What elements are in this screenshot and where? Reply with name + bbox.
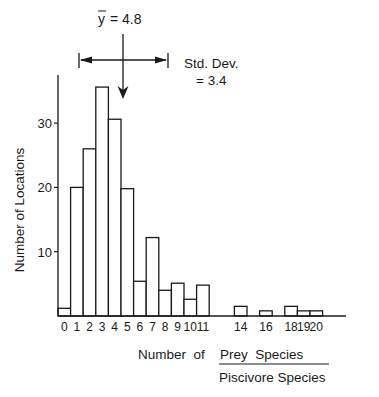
y-tick-10: 10 [38, 245, 52, 260]
y-tick-20: 20 [38, 180, 52, 195]
x-tick-5: 5 [124, 320, 131, 334]
std-dev-value: = 3.4 [196, 73, 227, 88]
bar-10 [184, 299, 197, 316]
bar-0 [58, 308, 71, 316]
y-axis-label: Number of Locations [12, 147, 27, 272]
x-axis-label-prefix: Number of [138, 347, 205, 362]
bar-16 [260, 311, 273, 316]
x-tick-8: 8 [162, 320, 169, 334]
bar-7 [146, 238, 159, 316]
mean-label-symbol: y [98, 11, 105, 27]
bar-14 [234, 306, 247, 316]
bar-4 [108, 119, 121, 316]
bar-2 [83, 149, 96, 316]
histogram-chart: 012345678910111416181920 102030 Number o… [0, 0, 379, 397]
x-tick-1: 1 [74, 320, 81, 334]
bar-11 [197, 285, 210, 316]
x-axis-label-denominator: Piscivore Species [219, 370, 326, 385]
x-tick-6: 6 [137, 320, 144, 334]
mean-arrow [118, 34, 129, 99]
y-tick-30: 30 [38, 116, 52, 131]
x-tick-10: 10 [184, 320, 198, 334]
bar-5 [121, 189, 134, 316]
x-tick-7: 7 [149, 320, 156, 334]
x-tick-11: 11 [197, 320, 210, 334]
bar-19 [297, 311, 310, 316]
y-tick-labels: 102030 [38, 116, 52, 260]
x-tick-labels: 012345678910111416181920 [61, 320, 323, 334]
bars [58, 87, 323, 316]
x-tick-16: 16 [259, 320, 273, 334]
bar-1 [71, 187, 84, 316]
x-tick-14: 14 [234, 320, 248, 334]
x-tick-20: 20 [310, 320, 324, 334]
x-tick-4: 4 [111, 320, 118, 334]
x-tick-3: 3 [99, 320, 106, 334]
bar-6 [134, 281, 147, 316]
x-tick-2: 2 [86, 320, 93, 334]
bar-8 [159, 290, 172, 316]
bar-20 [310, 311, 323, 316]
mean-label-value: = 4.8 [106, 11, 142, 27]
bar-3 [96, 87, 109, 316]
x-tick-0: 0 [61, 320, 68, 334]
x-tick-9: 9 [174, 320, 181, 334]
bar-18 [285, 306, 298, 316]
x-axis-label-numerator: Prey Species [220, 347, 304, 362]
bar-9 [171, 283, 184, 316]
std-dev-label: Std. Dev. [184, 56, 239, 71]
